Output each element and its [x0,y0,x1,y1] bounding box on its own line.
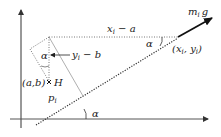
h-point-marker [47,80,51,84]
h-label: H [53,77,63,88]
dotted-rect-left-edge [30,37,49,49]
diagram-canvas: mig (xi, yi) xi − a yi − b (a,b) H pi α … [0,0,221,137]
p-label: pi [48,92,57,105]
alpha-top-right-label: α [146,38,153,49]
alpha-bottom-label: α [92,108,99,119]
angle-arc-top-left [41,66,49,67]
diagram-svg: mig (xi, yi) xi − a yi − b (a,b) H pi α … [0,0,221,137]
angle-arc-top-right [160,37,162,46]
angle-arc-bottom [84,109,86,119]
alpha-top-left-label: α [41,50,48,61]
dx-label: xi − a [107,23,136,36]
ab-label: (a,b) [22,77,45,88]
force-arrow [178,18,212,37]
dy-label: yi − b [71,49,101,62]
point-label: (xi, yi) [172,43,202,56]
force-label: mig [188,6,208,19]
